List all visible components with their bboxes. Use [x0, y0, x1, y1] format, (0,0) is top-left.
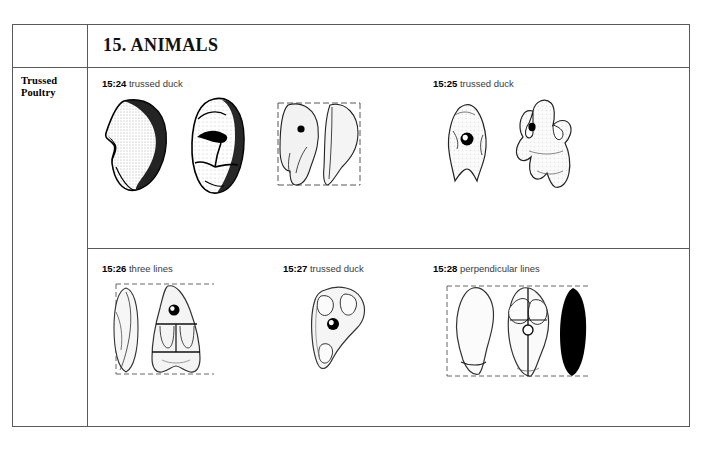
figure-artwork-15-25: [433, 93, 593, 198]
figure-caption-15-26: 15:26 three lines: [102, 263, 232, 274]
figure-number-15-24: 15:24: [102, 78, 126, 89]
figure-caption-15-27: 15:27 trussed duck: [283, 263, 395, 274]
category-label-line-2: Poultry: [21, 87, 85, 99]
figure-number-15-28: 15:28: [433, 263, 457, 274]
category-label: Trussed Poultry: [21, 75, 85, 99]
figure-group-15-24: 15:24 trussed duck: [102, 78, 377, 198]
catalogue-page: Trussed Poultry 15. ANIMALS 15:24 trusse…: [0, 0, 726, 449]
view-1-15-28: [456, 288, 493, 375]
figure-number-15-25: 15:25: [433, 78, 457, 89]
artwork-svg-15-25: [433, 93, 593, 198]
content-column: 15. ANIMALS 15:24 trussed duck: [88, 25, 689, 426]
view-2-15-28: [508, 288, 548, 376]
view-1-15-27: [312, 287, 365, 368]
view-1-15-26: [114, 288, 138, 372]
figure-group-15-25: 15:25 trussed duck: [433, 78, 593, 198]
figure-group-15-26: 15:26 three lines: [102, 263, 232, 388]
view-3-15-28: [560, 288, 586, 376]
figure-band-lower: 15:26 three lines: [88, 249, 689, 426]
view-1-15-25: [448, 105, 486, 181]
figure-artwork-15-28: [439, 278, 609, 388]
view-2-15-24: [192, 98, 244, 193]
figure-number-15-27: 15:27: [283, 263, 307, 274]
figure-group-15-27: 15:27 trussed duck: [283, 263, 395, 383]
figure-band-upper: 15:24 trussed duck: [88, 68, 689, 249]
figure-description-15-24: trussed duck: [129, 78, 183, 89]
figure-caption-15-25: 15:25 trussed duck: [433, 78, 593, 89]
figure-number-15-26: 15:26: [102, 263, 126, 274]
category-column: Trussed Poultry: [13, 25, 88, 426]
view-2-15-26: [152, 286, 200, 372]
view-3-15-24: [278, 103, 360, 185]
view-1-15-24: [106, 100, 167, 190]
figure-description-15-26: three lines: [129, 263, 173, 274]
figure-artwork-15-27: [295, 278, 395, 383]
figure-artwork-15-26: [102, 278, 232, 388]
artwork-svg-15-26: [102, 278, 232, 388]
catalogue-table: Trussed Poultry 15. ANIMALS 15:24 trusse…: [12, 24, 690, 427]
category-label-line-1: Trussed: [21, 75, 85, 87]
figure-group-15-28: 15:28 perpendicular lines: [433, 263, 609, 388]
page-title: 15. ANIMALS: [103, 35, 218, 56]
figure-caption-15-28: 15:28 perpendicular lines: [433, 263, 609, 274]
view-2-15-25: [516, 100, 571, 187]
artwork-svg-15-28: [439, 278, 609, 388]
figure-caption-15-24: 15:24 trussed duck: [102, 78, 377, 89]
artwork-svg-15-27: [295, 278, 395, 383]
section-title-row: 15. ANIMALS: [88, 25, 689, 68]
figure-description-15-28: perpendicular lines: [460, 263, 540, 274]
figure-description-15-27: trussed duck: [310, 263, 364, 274]
figure-artwork-15-24: [102, 93, 377, 198]
category-header-cell: [13, 25, 87, 68]
figure-description-15-25: trussed duck: [460, 78, 514, 89]
artwork-svg-15-24: [102, 93, 377, 198]
